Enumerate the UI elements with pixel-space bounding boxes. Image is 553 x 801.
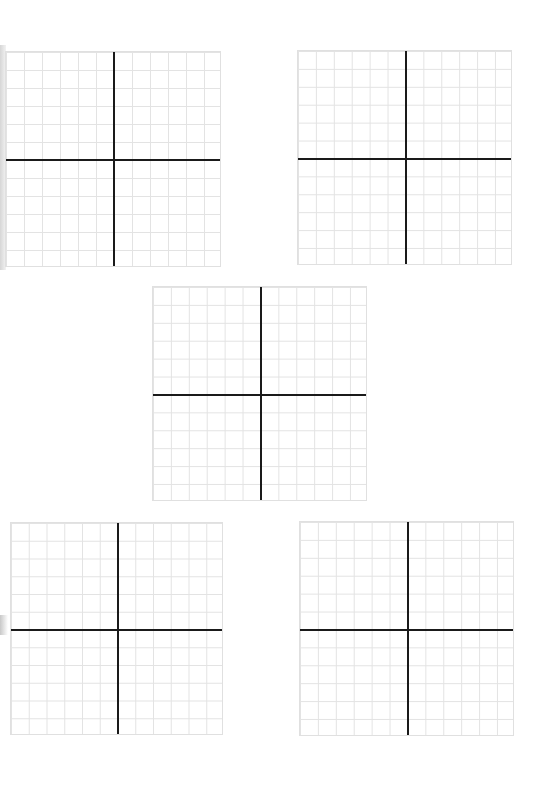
y-axis: [117, 523, 119, 734]
coordinate-plane-bottom-left: [10, 522, 223, 735]
y-axis: [405, 51, 407, 264]
scan-edge-mark: [0, 615, 8, 635]
coordinate-plane-bottom-right: [299, 521, 514, 736]
coordinate-plane-top-right: [297, 50, 512, 265]
coordinate-plane-center: [152, 286, 367, 501]
y-axis: [407, 522, 409, 735]
coordinate-plane-top-left: [5, 51, 221, 267]
y-axis: [260, 287, 262, 500]
y-axis: [113, 52, 115, 266]
